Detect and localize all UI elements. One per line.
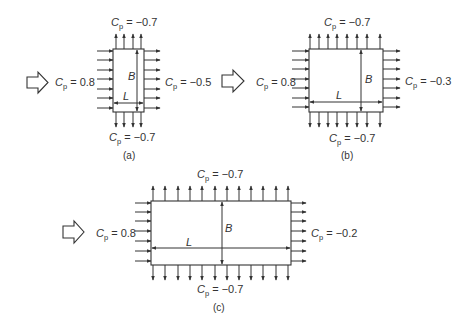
bottom-cp-label: Cp = −0.7 [109,131,155,146]
windward-pressure-arrows [292,51,309,107]
bottom-suction-arrows [153,265,288,280]
dimension-l-label: L [123,90,129,102]
leeward-cp-label: Cp = −0.5 [165,76,211,91]
wind-direction-icon [222,70,244,92]
top-cp-label: Cp = −0.7 [324,16,370,31]
wind-direction-icon [27,72,48,93]
windward-cp-label: Cp = 0.8 [256,76,296,91]
top-suction-arrows [153,186,288,201]
top-suction-arrows [310,34,380,49]
leeward-cp-label: Cp = −0.2 [311,227,357,242]
dimension-l-label: L [186,236,192,248]
dimension-b-label: B [225,222,232,234]
windward-pressure-arrows [97,51,113,108]
panel-c: Cp = 0.8 [63,168,357,313]
panel-caption: (a) [123,150,135,161]
leeward-suction-arrows [383,51,400,107]
top-cp-label: Cp = −0.7 [197,168,243,183]
panel-caption: (b) [341,150,353,161]
pressure-coefficient-diagram: Cp = 0.8 [0,0,468,319]
top-cp-label: Cp = −0.7 [111,16,157,31]
top-suction-arrows [116,34,141,49]
building-plan-rect [151,201,291,265]
leeward-cp-label: Cp = −0.3 [405,75,451,90]
bottom-cp-label: Cp = −0.7 [329,132,375,147]
windward-cp-label: Cp = 0.8 [55,76,95,91]
leeward-suction-arrows [291,203,306,261]
dimension-b-label: B [365,73,372,85]
panel-a: Cp = 0.8 [27,16,211,161]
panel-b: Cp = 0.8 [222,16,451,161]
windward-cp-label: Cp = 0.8 [96,227,136,242]
bottom-cp-label: Cp = −0.7 [197,283,243,298]
bottom-suction-arrows [310,112,380,127]
leeward-suction-arrows [144,51,160,108]
panel-caption: (c) [213,302,225,313]
bottom-suction-arrows [116,112,141,127]
windward-pressure-arrows [135,203,151,261]
dimension-l-label: L [336,89,342,101]
dimension-b-label: B [128,70,135,82]
wind-direction-icon [63,221,84,243]
